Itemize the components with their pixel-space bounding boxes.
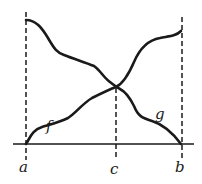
label-a: a [19,158,28,176]
label-c: c [110,160,119,178]
function-diagram: f g a c b [0,0,202,184]
label-g: g [155,105,165,123]
label-f: f [45,117,54,135]
label-b: b [175,158,185,176]
